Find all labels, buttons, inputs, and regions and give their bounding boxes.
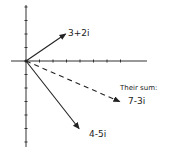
label-7-minus-3i: 7-3i xyxy=(128,97,145,106)
vector-4-minus-5i xyxy=(26,61,79,129)
label-4-minus-5i: 4-5i xyxy=(89,130,106,139)
sum-caption: Their sum: xyxy=(120,85,157,92)
label-3-plus-2i: 3+2i xyxy=(68,29,90,38)
origin-dot xyxy=(24,59,27,62)
vector-sum-7-minus-3i xyxy=(26,61,120,102)
vector-diagram: 3+2i 4-5i Their sum: 7-3i xyxy=(0,0,179,159)
vector-3-plus-2i xyxy=(26,34,66,61)
